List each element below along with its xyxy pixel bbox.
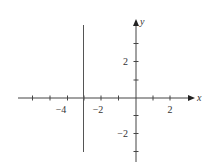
y-axis-label: y xyxy=(139,16,145,27)
coordinate-plane: −4 −2 2 2 −2 x y xyxy=(0,0,211,162)
x-tick-label-neg2: −2 xyxy=(93,104,104,115)
x-tick-label-2: 2 xyxy=(168,104,173,115)
y-axis-arrow-icon xyxy=(133,19,139,26)
x-tick-label-neg4: −4 xyxy=(56,104,67,115)
y-tick-label-2: 2 xyxy=(123,56,128,67)
y-tick-label-neg2: −2 xyxy=(117,128,128,139)
x-axis-label: x xyxy=(196,92,202,103)
x-axis-arrow-icon xyxy=(188,95,195,101)
